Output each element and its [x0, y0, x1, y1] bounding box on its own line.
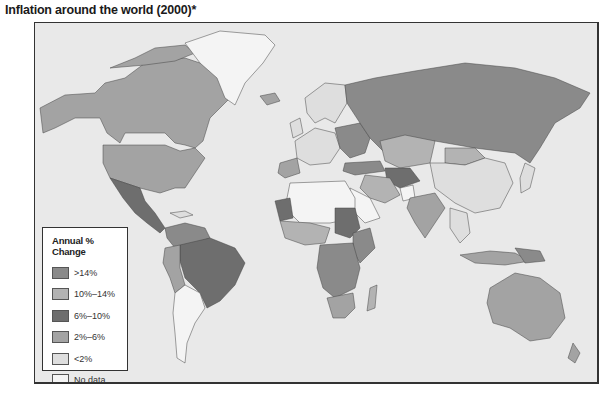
legend-label: 6%–10%: [74, 311, 110, 321]
region-australia: [487, 273, 565, 341]
legend-item-6-10: 6%–10%: [52, 305, 127, 327]
region-argentina: [173, 285, 205, 363]
region-india: [407, 193, 445, 238]
legend-label: 2%–6%: [74, 332, 105, 342]
legend-swatch: [52, 310, 69, 322]
map-title: Inflation around the world (2000)*: [5, 3, 196, 17]
region-central-africa: [317, 243, 360, 298]
legend-item-2-6: 2%–6%: [52, 327, 127, 349]
legend-label: <2%: [74, 354, 92, 364]
legend-title: Annual % Change: [52, 235, 127, 257]
legend-label: No data: [74, 375, 106, 384]
legend-item-over-14: >14%: [52, 262, 127, 284]
legend-swatch: [52, 288, 69, 300]
legend-swatch: [52, 353, 69, 365]
legend-item-under-2: <2%: [52, 348, 127, 370]
world-map: Annual % Change >14% 10%–14% 6%–10% 2%–6…: [34, 22, 599, 384]
legend-item-no-data: No data: [52, 370, 127, 385]
map-legend: Annual % Change >14% 10%–14% 6%–10% 2%–6…: [42, 227, 128, 371]
region-turkey: [343, 161, 385, 175]
legend-swatch: [52, 374, 69, 384]
region-canada: [40, 58, 235, 148]
legend-label: 10%–14%: [74, 289, 115, 299]
legend-item-10-14: 10%–14%: [52, 284, 127, 306]
region-south-africa: [327, 293, 355, 318]
legend-swatch: [52, 267, 69, 279]
legend-label: >14%: [74, 268, 97, 278]
legend-swatch: [52, 331, 69, 343]
